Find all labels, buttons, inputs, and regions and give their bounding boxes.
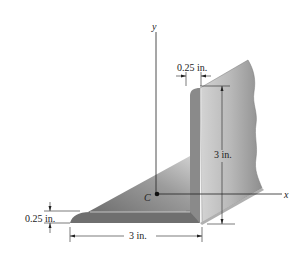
top-thickness-label: 0.25 in. xyxy=(177,62,207,73)
bottom-thickness-dimension: 0.25 in. xyxy=(25,202,80,233)
vertical-leg-face xyxy=(200,60,262,223)
angle-diagram: y x C 0.25 in. 3 in. 0.25 in. xyxy=(0,0,308,264)
centroid-label: C xyxy=(144,192,151,203)
horizontal-leg-label: 3 in. xyxy=(129,230,147,241)
bottom-flange-section xyxy=(70,212,200,223)
horizontal-leg-dimension: 3 in. xyxy=(70,227,202,242)
horizontal-leg-face xyxy=(88,156,190,212)
bottom-thickness-label: 0.25 in. xyxy=(25,213,55,224)
vertical-leg-label: 3 in. xyxy=(214,149,232,160)
x-axis-label: x xyxy=(283,189,289,200)
top-thickness-dimension: 0.25 in. xyxy=(176,62,211,86)
centroid-point xyxy=(155,192,160,197)
y-axis-label: y xyxy=(151,21,157,32)
